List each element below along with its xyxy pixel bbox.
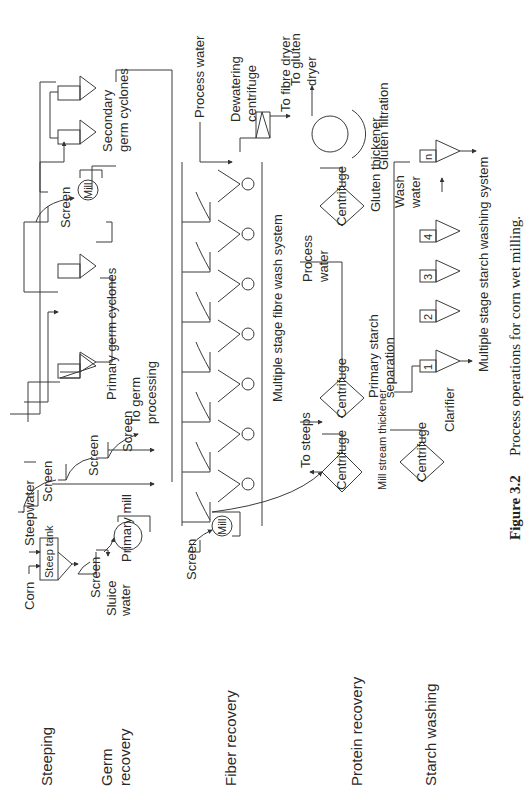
fibre-wash-stage-6 bbox=[182, 220, 254, 272]
screen-1-label: Screen bbox=[40, 461, 55, 502]
to-gluten-dryer-label-2: dryer bbox=[304, 56, 319, 86]
process-water-2-label-2: water bbox=[316, 250, 331, 283]
secondary-germ-cyclone-2 bbox=[58, 86, 80, 100]
process-water-2-label: Process bbox=[300, 235, 315, 282]
wash-water-label: Wash bbox=[392, 175, 407, 208]
fibre-wash-stage-1 bbox=[182, 470, 254, 522]
steep-tank-label: Steep tank bbox=[43, 525, 55, 578]
starch-washing-section: Centrifuge Clarifier 1 2 3 4 n Wash wate… bbox=[390, 140, 491, 482]
screen-upper-label: Screen bbox=[58, 187, 73, 228]
fibre-wash-system-label: Multiple stage fibre wash system bbox=[270, 214, 285, 402]
fibre-wash-stage-4 bbox=[182, 320, 254, 372]
stage-3-label: 3 bbox=[422, 274, 434, 280]
stage-label-fiber: Fiber recovery bbox=[222, 690, 239, 786]
gluten-filtration-label: Gluten filtration bbox=[376, 83, 391, 170]
gluten-filter-drum bbox=[312, 116, 348, 152]
stage-label-steeping: Steeping bbox=[38, 727, 55, 786]
screen-2-label: Screen bbox=[86, 435, 101, 476]
process-flow-diagram: Steeping Germ recovery Fiber recovery Pr… bbox=[0, 0, 528, 802]
starch-hydrocyclone-1: 1 bbox=[420, 350, 460, 372]
clarifier-label: Clarifier bbox=[442, 387, 457, 432]
primary-germ-cyclones-label: Primary germ cyclones bbox=[104, 267, 119, 400]
sluice-water-label-2: water bbox=[118, 584, 133, 617]
primary-germ-cyclone-2 bbox=[58, 264, 80, 278]
fibre-wash-stage-2 bbox=[182, 420, 254, 472]
secondary-germ-cyclone-1 bbox=[58, 130, 80, 144]
figure-caption: Process operations for corn wet milling. bbox=[507, 216, 523, 456]
sluice-water-label: Sluice bbox=[104, 581, 119, 616]
steep-tank-cone bbox=[58, 552, 72, 580]
corn-label: Corn bbox=[22, 582, 37, 610]
to-steeps-label: To steeps bbox=[298, 412, 313, 468]
starch-washing-system-label: Multiple stage starch washing system bbox=[476, 157, 491, 372]
wash-water-label-2: water bbox=[408, 176, 423, 209]
fibre-wash-stage-5 bbox=[182, 270, 254, 322]
fibre-wash-stage-7 bbox=[182, 170, 254, 222]
stage-label-starch: Starch washing bbox=[422, 683, 439, 786]
starch-hydrocyclone-4: 4 bbox=[420, 220, 460, 242]
stage-2-label: 2 bbox=[422, 314, 434, 320]
stage-label-germ: Germ bbox=[98, 749, 115, 787]
to-gluten-dryer-label: To gluten bbox=[288, 33, 303, 86]
to-germ-processing-label: To germ bbox=[128, 377, 143, 424]
starch-hydrocyclone-2: 2 bbox=[420, 300, 460, 322]
stage-n-label: n bbox=[422, 154, 434, 160]
screen-label: Screen bbox=[88, 557, 103, 598]
stage-1-label: 1 bbox=[422, 364, 434, 370]
fiber-screen-label: Screen bbox=[184, 539, 199, 580]
starch-hydrocyclone-n: n bbox=[420, 140, 460, 162]
steepwater-label: Steepwater bbox=[22, 480, 37, 546]
to-germ-processing-label-2: processing bbox=[144, 361, 159, 424]
primary-mill-label: Primary mill bbox=[119, 494, 134, 562]
mill-stream-thickener-label: Mill stream thickener bbox=[376, 389, 388, 490]
dewatering-label: Dewatering bbox=[228, 56, 243, 122]
gluten-filtration-trough bbox=[352, 110, 366, 158]
secondary-germ-cyclones-label-2: germ cyclones bbox=[116, 68, 131, 152]
diagram-canvas: Steeping Germ recovery Fiber recovery Pr… bbox=[0, 0, 528, 802]
dewatering-label-2: centrifuge bbox=[244, 65, 259, 122]
figure-number: Figure 3.2 bbox=[507, 475, 523, 540]
stage-4-label: 4 bbox=[422, 234, 434, 240]
fiber-mill-label: Mill bbox=[216, 519, 228, 536]
secondary-germ-cyclones-label: Secondary bbox=[100, 89, 115, 152]
primary-starch-label: Primary starch bbox=[366, 314, 381, 398]
process-water-label: Process water bbox=[192, 35, 207, 118]
stage-label-germ-2: recovery bbox=[116, 728, 133, 786]
primary-starch-label-2: separation bbox=[382, 337, 397, 398]
stage-label-protein: Protein recovery bbox=[348, 676, 365, 786]
starch-hydrocyclone-3: 3 bbox=[420, 260, 460, 282]
fibre-wash-stage-3 bbox=[182, 370, 254, 422]
